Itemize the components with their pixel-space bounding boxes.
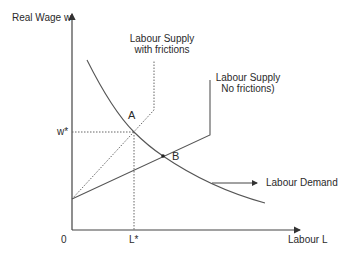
supply-with-frictions-label: Labour Supply with frictions bbox=[126, 33, 198, 55]
supply-no-frictions-label: Labour Supply No frictions) bbox=[212, 72, 284, 94]
supply-no-frictions-line1: Labour Supply bbox=[212, 72, 284, 83]
point-b-dot bbox=[161, 154, 165, 158]
w-star-label: w* bbox=[57, 126, 68, 137]
labour-demand-label: Labour Demand bbox=[266, 177, 338, 188]
point-a-label: A bbox=[128, 110, 135, 121]
supply-with-frictions-curve bbox=[72, 60, 154, 199]
supply-with-frictions-line1: Labour Supply bbox=[126, 33, 198, 44]
l-star-label: L* bbox=[129, 234, 138, 245]
y-axis-label: Real Wage w bbox=[12, 12, 71, 23]
supply-no-frictions-line2: No frictions) bbox=[212, 83, 284, 94]
supply-with-frictions-line2: with frictions bbox=[126, 44, 198, 55]
origin-label: 0 bbox=[61, 234, 67, 245]
point-b-label: B bbox=[172, 151, 179, 162]
x-axis-label: Labour L bbox=[288, 234, 327, 245]
supply-no-frictions-curve bbox=[72, 80, 210, 199]
